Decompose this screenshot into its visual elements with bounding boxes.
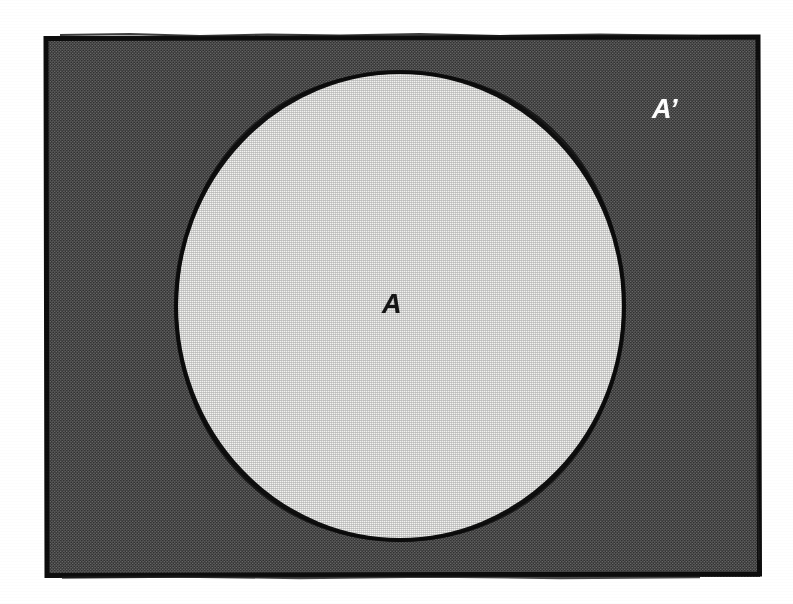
border-bottom-noise bbox=[62, 577, 700, 579]
set-label-a-complement: A’ bbox=[652, 96, 678, 123]
set-label-a: A bbox=[382, 291, 402, 318]
figure-canvas: A A’ bbox=[0, 0, 793, 604]
